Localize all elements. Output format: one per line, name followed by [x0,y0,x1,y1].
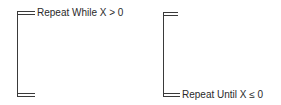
until-bracket-top-line-2 [163,15,178,16]
while-bracket-top-line-1 [17,11,35,12]
until-bracket-top-line-1 [163,12,178,13]
while-bracket-bottom-line-1 [17,93,35,94]
until-bracket-bottom-line-1 [163,93,180,94]
until-bracket-bottom-line-2 [163,96,180,97]
until-loop-label: Repeat Until X ≤ 0 [182,90,263,100]
while-bracket-bottom-line-2 [17,96,35,97]
until-bracket-vertical [163,12,164,97]
while-bracket-vertical [17,11,18,97]
while-bracket-top-line-2 [17,14,35,15]
while-loop-label: Repeat While X > 0 [37,8,123,18]
